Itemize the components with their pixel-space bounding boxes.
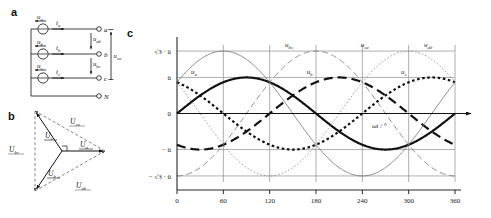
curve-label-u_b: ub <box>307 68 314 77</box>
x-tick-label: 60 <box>220 197 228 205</box>
chart-curve-labels: uaubucuabubcuca <box>191 41 433 77</box>
y-tick-label: 0 <box>168 110 172 118</box>
curve-label-u_a: ua <box>191 68 198 77</box>
y-tick-label: √3 · û <box>154 48 171 56</box>
x-axis-title: ωt / ° <box>372 122 387 130</box>
x-tick-label: 120 <box>264 197 275 205</box>
x-tick-label: 180 <box>311 197 322 205</box>
x-tick-label: 240 <box>357 197 368 205</box>
y-tick-label: û <box>168 74 172 82</box>
curve-label-u_ca: uca <box>361 41 370 50</box>
curve-label-u_bc: ubc <box>285 41 293 50</box>
y-tick-label: − û <box>162 146 172 154</box>
curve-label-u_c: uc <box>401 68 407 77</box>
waveform-chart: √3 · ûû0− û− √3 · û060120180240300360 ua… <box>0 0 491 218</box>
x-tick-label: 360 <box>450 197 461 205</box>
x-tick-label: 300 <box>403 197 414 205</box>
x-tick-label: 0 <box>175 197 179 205</box>
y-tick-label: − √3 · û <box>149 173 172 181</box>
chart-axes <box>177 37 471 194</box>
curve-label-u_ab: uab <box>424 41 433 50</box>
